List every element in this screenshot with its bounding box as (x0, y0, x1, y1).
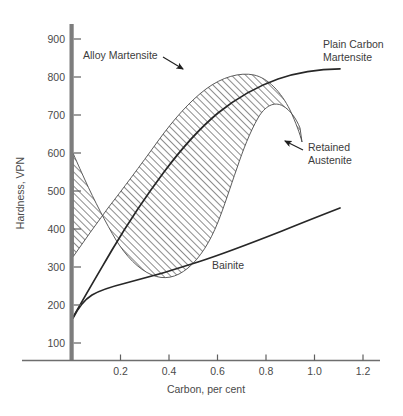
y-tick-label-600: 600 (47, 147, 65, 159)
y-tick-label-800: 800 (47, 71, 65, 83)
bainite-label: Bainite (212, 259, 244, 271)
x-tick-label-0-2: 0.2 (113, 365, 128, 377)
y-axis-title: Hardness, VPN (14, 157, 26, 229)
y-axis-spine (70, 24, 74, 361)
y-tick-label-700: 700 (47, 109, 65, 121)
hardness-carbon-chart: 900 800 700 600 500 400 300 200 100 0.2 … (0, 0, 403, 416)
y-tick-label-100: 100 (47, 337, 65, 349)
y-tick-label-400: 400 (47, 223, 65, 235)
annotation-bainite: Bainite (212, 259, 244, 271)
x-tick-label-1-2: 1.2 (356, 365, 371, 377)
plain-carbon-label-line1: Plain Carbon (323, 38, 384, 50)
x-tick-label-0-8: 0.8 (259, 365, 274, 377)
y-tick-label-300: 300 (47, 261, 65, 273)
chart-figure: 900 800 700 600 500 400 300 200 100 0.2 … (0, 0, 403, 416)
x-axis-title: Carbon, per cent (167, 383, 245, 395)
x-tick-label-0-6: 0.6 (210, 365, 225, 377)
plain-carbon-label-line2: Martensite (323, 51, 372, 63)
retained-austenite-label-line2: Austenite (308, 154, 352, 166)
retained-austenite-label-line1: Retained (308, 141, 350, 153)
x-tick-label-0-4: 0.4 (162, 365, 177, 377)
y-tick-label-200: 200 (47, 299, 65, 311)
y-tick-label-500: 500 (47, 185, 65, 197)
y-tick-label-900: 900 (47, 33, 65, 45)
alloy-martensite-label: Alloy Martensite (83, 49, 158, 61)
x-tick-label-1-0: 1.0 (307, 365, 322, 377)
y-axis-tick-labels: 900 800 700 600 500 400 300 200 100 (47, 33, 65, 349)
